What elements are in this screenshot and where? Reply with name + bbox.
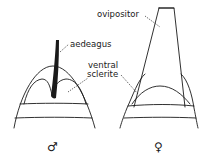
genitalia-diagram: aedeagus ovipositor ventral sclerite ♂ ♀ [0,0,211,166]
female-ventral-leader [121,75,138,94]
female-band-1 [128,105,194,107]
female-outer-right [181,74,198,128]
aedeagus-shape [51,40,59,98]
aedeagus-label: aedeagus [70,39,112,49]
male-symbol: ♂ [47,140,58,154]
male-band-2 [15,117,92,118]
male-band-1 [20,103,88,104]
male-abdomen: aedeagus [14,39,112,128]
female-band-2 [124,117,196,118]
female-symbol: ♀ [154,140,163,154]
female-outer-left [120,74,145,128]
female-ventral-sclerite [132,86,190,104]
ventral-sclerite-label-2: sclerite [87,69,118,79]
ovipositor-label: ovipositor [97,9,140,19]
aedeagus-leader [60,44,69,52]
ovipositor-leader [145,16,160,27]
